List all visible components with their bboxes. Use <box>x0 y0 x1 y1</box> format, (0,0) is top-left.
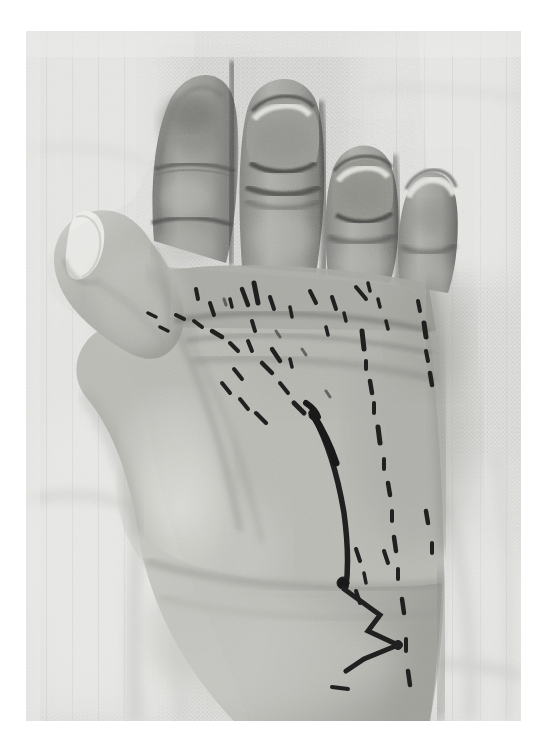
page-root <box>0 0 541 740</box>
photograph-canvas <box>26 31 521 721</box>
clinical-photograph <box>26 31 521 721</box>
photo-tone-overlay <box>26 31 521 721</box>
